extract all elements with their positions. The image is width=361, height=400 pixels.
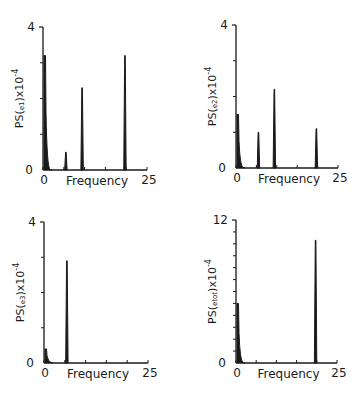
x-tick-label-max: 25	[142, 366, 157, 380]
spectrum-peak	[66, 261, 68, 363]
x-tick-label-min: 0	[40, 173, 48, 187]
y-tick-label-max: 4	[27, 20, 35, 34]
spectrum-peak	[65, 152, 67, 170]
chart-panel-bottom-left: 04025FrequencyPS(e3)x10-4	[12, 215, 158, 381]
y-tick-label-max: 4	[28, 215, 36, 229]
y-axis-label: PS(etot)x10-4	[204, 259, 219, 324]
power-spectra-figure: 04025FrequencyPS(e1)x10-404025FrequencyP…	[0, 0, 361, 400]
spectrum-peak	[124, 56, 126, 170]
spectrum-peak	[237, 114, 245, 168]
y-axis-label: PS(e3)x10-4	[12, 263, 27, 322]
x-tick-label-max: 25	[332, 171, 347, 185]
spectrum-peak	[314, 240, 316, 363]
x-tick-label-max: 25	[141, 173, 156, 187]
spectrum-peak	[44, 56, 52, 170]
chart-panel-top-left: 04025FrequencyPS(e1)x10-4	[11, 20, 157, 188]
spectrum-peak	[273, 89, 275, 168]
spectrum-peak	[315, 129, 317, 168]
y-axis-label: PS(e2)x10-4	[204, 67, 219, 126]
y-tick-label-min: 0	[218, 356, 226, 370]
x-tick-label-min: 0	[233, 366, 241, 380]
spectrum-peak	[45, 349, 53, 363]
spectrum-peak	[81, 88, 83, 170]
chart-panel-bottom-right: 012025FrequencyPS(etot)x10-4	[204, 213, 347, 381]
y-axis-label: PS(e1)x10-4	[11, 69, 26, 128]
chart-panel-top-right: 04025FrequencyPS(e2)x10-4	[204, 18, 348, 186]
y-tick-label-max: 12	[213, 213, 228, 227]
x-axis-label: Frequency	[67, 367, 129, 381]
y-tick-label-max: 4	[220, 18, 228, 32]
spectrum-peak	[257, 132, 259, 168]
spectrum-peak	[237, 303, 245, 363]
x-tick-label-min: 0	[41, 366, 49, 380]
x-axis-label: Frequency	[258, 367, 320, 381]
x-tick-label-min: 0	[233, 171, 241, 185]
x-axis-label: Frequency	[66, 174, 128, 188]
y-tick-label-min: 0	[25, 163, 33, 177]
x-tick-label-max: 25	[331, 366, 346, 380]
y-tick-label-min: 0	[218, 161, 226, 175]
y-tick-label-min: 0	[26, 356, 34, 370]
x-axis-label: Frequency	[258, 172, 320, 186]
